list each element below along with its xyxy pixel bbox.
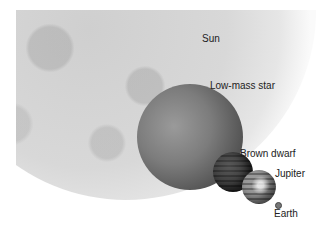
jupiter-label: Jupiter [275,168,305,179]
brown-dwarf-label: Brown dwarf [240,148,296,159]
jupiter-sphere [242,170,276,204]
sun-label: Sun [202,33,220,44]
low-mass-star-label: Low-mass star [210,80,275,91]
earth-label: Earth [274,208,298,219]
